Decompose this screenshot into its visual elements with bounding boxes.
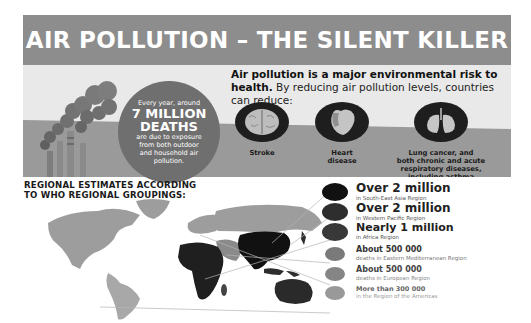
legend-value: Nearly 1 million [356, 222, 454, 234]
legend-item-europe: About 500 000 deaths in European Region [322, 265, 430, 282]
legend-region: deaths in European Region [356, 275, 430, 282]
legend-dot [325, 286, 345, 300]
legend-region: in the Region of the Americas [356, 293, 438, 300]
legend-dot [322, 203, 348, 221]
disease-stroke: Stroke [235, 102, 289, 157]
disease-lungs: Lung cancer, and both chronic and acute … [391, 102, 491, 177]
label-line: including asthma [391, 173, 491, 177]
title-line: REGIONAL ESTIMATES ACCORDING [24, 180, 196, 190]
title-banner: AIR POLLUTION – THE SILENT KILLER [23, 15, 511, 65]
legend-item-eastern-mediterranean: About 500 000 deaths in Eastern Mediterr… [322, 245, 467, 262]
lungs-icon [414, 102, 468, 142]
legend-dot [322, 223, 348, 241]
disease-label: Heart disease [315, 149, 369, 165]
legend-dot [325, 247, 345, 261]
legend-region: deaths in Eastern Mediterranean Region [356, 255, 467, 262]
label-line: disease [315, 157, 369, 165]
brain-icon [235, 102, 289, 142]
callout-line: pollution. [154, 157, 184, 165]
legend-value: About 500 000 [356, 245, 467, 255]
callout-line: are due to exposure [136, 133, 201, 141]
legend-value: More than 300 000 [356, 285, 438, 293]
legend-value: About 500 000 [356, 265, 430, 275]
legend-item-south-east-asia: Over 2 million in South-East Asia Region [322, 182, 451, 202]
legend-dot [322, 183, 348, 201]
deaths-callout: Every year, around 7 MILLION DEATHS are … [118, 81, 220, 183]
label-line: respiratory diseases, [391, 165, 491, 173]
label-line: both chronic and acute [391, 157, 491, 165]
disease-label: Stroke [235, 149, 289, 157]
legend-item-americas: More than 300 000 in the Region of the A… [322, 285, 438, 300]
heart-icon [315, 102, 369, 142]
label-line: Lung cancer, and [391, 149, 491, 157]
disease-heart: Heart disease [315, 102, 369, 165]
disease-label: Lung cancer, and both chronic and acute … [391, 149, 491, 177]
legend-value: Over 2 million [356, 182, 451, 195]
legend-value: Over 2 million [356, 202, 451, 215]
callout-big: DEATHS [140, 120, 198, 133]
legend-dot [325, 267, 345, 281]
upper-panel: Air pollution is a major environmental r… [23, 65, 511, 177]
page-title: AIR POLLUTION – THE SILENT KILLER [23, 15, 511, 65]
legend-item-western-pacific: Over 2 million in Western Pacific Region [322, 202, 451, 222]
callout-line: from both outdoor [139, 141, 198, 149]
world-map [40, 195, 330, 320]
legend-region: in Africa Region [356, 234, 454, 241]
legend-item-africa: Nearly 1 million in Africa Region [322, 222, 454, 241]
label-line: Heart [315, 149, 369, 157]
callout-line: and household air [140, 149, 198, 157]
